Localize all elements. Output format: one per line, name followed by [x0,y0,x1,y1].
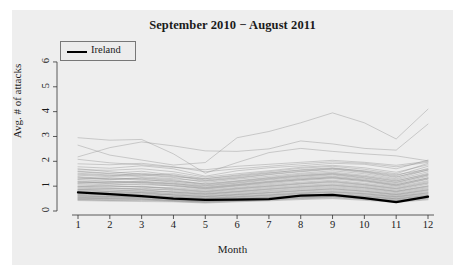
y-axis-label: Avg. # of attacks [11,46,23,156]
x-tick-label: 9 [322,219,344,230]
x-tick-label: 10 [353,219,375,230]
x-tick-label: 1 [67,219,89,230]
y-tick-label: 5 [40,78,51,92]
legend-line-ireland [67,51,87,53]
legend-label-ireland: Ireland [91,44,121,55]
x-tick-label: 4 [162,219,184,230]
x-tick-label: 3 [131,219,153,230]
y-tick-label: 3 [40,128,51,142]
x-tick-label: 6 [226,219,248,230]
y-tick-label: 0 [40,203,51,217]
y-tick-label: 4 [40,103,51,117]
x-tick-label: 7 [258,219,280,230]
chart-screenshot: September 2010 − August 2011 Month Avg. … [0,0,465,276]
y-tick-label: 2 [40,153,51,167]
y-tick-label: 6 [40,53,51,67]
chart-legend: Ireland [60,41,136,61]
x-tick-label: 11 [385,219,407,230]
chart-title: September 2010 − August 2011 [0,18,465,33]
x-tick-label: 5 [194,219,216,230]
x-tick-label: 8 [290,219,312,230]
y-tick-label: 1 [40,178,51,192]
x-tick-label: 12 [417,219,439,230]
x-axis-label: Month [0,243,465,255]
x-tick-label: 2 [99,219,121,230]
